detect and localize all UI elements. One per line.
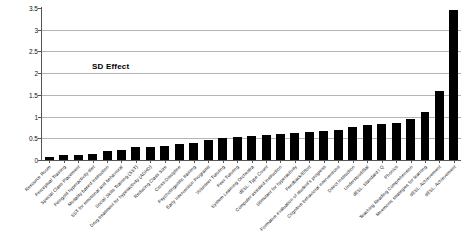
sd-effect-annotation: SD Effect (92, 62, 129, 71)
bar-slot (317, 8, 331, 160)
x-axis-labels: Resource RoomPerceptual TrainingSpecial … (42, 163, 461, 251)
y-tick-label: 3.5 (29, 5, 38, 12)
y-tick-mark (38, 8, 41, 9)
bar (348, 127, 357, 160)
bar (103, 151, 112, 160)
bar-slot (71, 8, 85, 160)
bar (363, 125, 372, 160)
bar-slot (244, 8, 258, 160)
bar (189, 143, 198, 160)
bar-slot (85, 8, 99, 160)
bar (449, 10, 458, 160)
bar-slot (187, 8, 201, 160)
bar-slot (172, 8, 186, 160)
bar (406, 119, 415, 160)
bar-slot (432, 8, 446, 160)
y-tick-mark (38, 51, 41, 52)
bar-slot (143, 8, 157, 160)
bar-slot (100, 8, 114, 160)
bar (117, 150, 126, 160)
bar (305, 132, 314, 160)
bar-slot (201, 8, 215, 160)
bar (146, 147, 155, 160)
bar-slot (403, 8, 417, 160)
bar (334, 130, 343, 160)
y-tick-mark (38, 117, 41, 118)
sd-effect-bar-chart: 00.511.522.533.5 Resource RoomPerceptual… (0, 0, 467, 252)
bar (319, 131, 328, 160)
bar-slot (288, 8, 302, 160)
y-tick-label: 1.5 (29, 91, 38, 98)
x-label-slot: dESL: Achievement (447, 163, 461, 251)
y-tick-label: 0.5 (29, 135, 38, 142)
bar-slot (374, 8, 388, 160)
bar-slot (56, 8, 70, 160)
bar (276, 134, 285, 160)
y-tick-mark (38, 30, 41, 31)
bar-slot (230, 8, 244, 160)
bar (435, 91, 444, 160)
bar-series (42, 8, 461, 160)
bar (421, 112, 430, 160)
bar-slot (302, 8, 316, 160)
bar (392, 123, 401, 160)
bar-slot (215, 8, 229, 160)
y-tick-label: 2.5 (29, 48, 38, 55)
y-tick-mark (38, 95, 41, 96)
bar-slot (273, 8, 287, 160)
bar-slot (259, 8, 273, 160)
bar-slot (447, 8, 461, 160)
bar-slot (158, 8, 172, 160)
bar-slot (346, 8, 360, 160)
bar-slot (129, 8, 143, 160)
bar-slot (360, 8, 374, 160)
bar (204, 140, 213, 160)
bar (247, 136, 256, 160)
bar-slot (42, 8, 56, 160)
bar-slot (389, 8, 403, 160)
y-tick-mark (38, 160, 41, 161)
bar (218, 138, 227, 160)
bar (262, 135, 271, 160)
y-tick-mark (38, 138, 41, 139)
y-axis-tick-labels: 00.511.522.533.5 (0, 0, 38, 252)
bar (131, 147, 140, 160)
y-tick-mark (38, 73, 41, 74)
bar (160, 146, 169, 160)
bar (175, 144, 184, 161)
bar (233, 137, 242, 160)
bar-slot (331, 8, 345, 160)
bar-slot (418, 8, 432, 160)
bar-slot (114, 8, 128, 160)
bar (377, 124, 386, 160)
bar (290, 133, 299, 160)
